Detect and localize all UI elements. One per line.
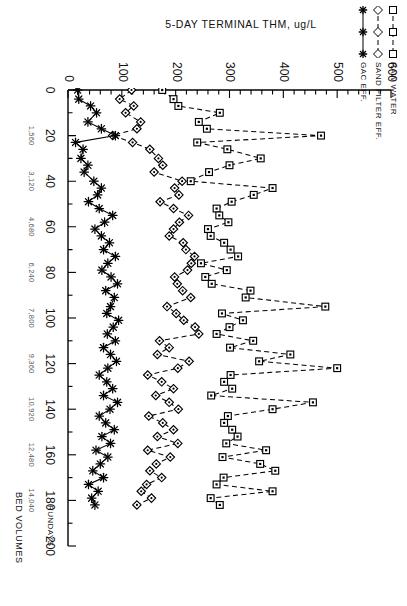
data-point-diamond	[163, 302, 171, 310]
diamond-marker-center	[186, 269, 188, 271]
data-point-square	[229, 426, 236, 433]
data-point-square	[269, 488, 276, 495]
legend-key-diamond-dashed	[372, 6, 386, 58]
series-sand-filter-eff	[108, 88, 203, 509]
square-marker-center	[229, 249, 231, 251]
data-point-square	[257, 155, 264, 162]
square-marker-center	[258, 360, 260, 362]
data-point-diamond	[145, 412, 153, 420]
data-point-diamond	[159, 419, 167, 427]
data-point-square	[175, 103, 182, 110]
diamond-marker-center	[177, 442, 179, 444]
diamond-marker-center	[190, 262, 192, 264]
data-point-diamond	[157, 378, 165, 386]
data-point-square	[223, 440, 230, 447]
data-point-diamond	[146, 467, 154, 475]
diamond-marker-center	[177, 408, 179, 410]
data-point-square	[287, 351, 294, 358]
data-point-square	[247, 287, 254, 294]
square-marker-center	[190, 180, 192, 182]
diamond-marker-center	[162, 422, 164, 424]
diamond-marker-center	[162, 164, 164, 166]
data-point-star	[114, 316, 123, 325]
diamond-marker-center	[159, 201, 161, 203]
data-point-star	[97, 124, 106, 133]
data-point-star	[99, 245, 108, 254]
square-marker-center	[231, 429, 233, 431]
x-tick-label: 120	[43, 344, 57, 384]
data-point-star	[80, 168, 89, 177]
square-marker-center	[271, 187, 273, 189]
data-point-diamond	[184, 211, 192, 219]
data-point-square	[221, 419, 228, 426]
diamond-marker-center	[156, 353, 158, 355]
data-point-square	[225, 219, 232, 226]
diamond-marker-center	[158, 340, 160, 342]
data-point-square	[221, 378, 228, 385]
square-marker-center	[289, 353, 291, 355]
data-point-diamond	[157, 473, 165, 481]
diamond-marker-center	[161, 381, 163, 383]
data-point-star	[109, 323, 118, 332]
data-point-diamond	[154, 154, 162, 162]
data-point-square	[220, 474, 227, 481]
diamond-marker-center	[188, 360, 190, 362]
x-axis-title-bed-volumes: BED VOLUMES	[14, 492, 24, 564]
data-point-star	[74, 95, 83, 104]
diamond-marker-center	[178, 221, 180, 223]
square-marker-center	[223, 242, 225, 244]
diamond-marker-center	[136, 128, 138, 130]
data-point-star	[106, 302, 115, 311]
diamond-marker-center	[147, 374, 149, 376]
data-point-diamond	[147, 494, 155, 502]
diamond-marker-center	[130, 89, 132, 91]
data-point-diamond	[115, 95, 123, 103]
square-marker-center	[242, 319, 244, 321]
data-point-star	[92, 109, 101, 118]
diamond-marker-center	[161, 477, 163, 479]
data-point-star	[77, 154, 86, 163]
square-marker-center	[218, 214, 220, 216]
data-point-square	[194, 139, 201, 146]
diamond-marker-center	[148, 415, 150, 417]
data-point-square	[213, 331, 220, 338]
data-point-square	[208, 392, 215, 399]
figure-canvas: RAW WATER SAND FILTER EFF.	[0, 0, 407, 606]
data-point-square	[224, 146, 231, 153]
y-tick-label: 600	[385, 42, 399, 82]
data-point-diamond	[178, 286, 186, 294]
data-point-square	[242, 294, 249, 301]
data-point-star	[71, 138, 80, 147]
data-point-diamond	[174, 439, 182, 447]
diamond-marker-center	[187, 214, 189, 216]
bed-volume-tick-label: 1,560	[27, 116, 36, 156]
data-point-star	[108, 384, 117, 393]
data-point-star	[113, 398, 122, 407]
data-point-square	[221, 239, 228, 246]
square-marker-center	[226, 269, 228, 271]
data-point-star	[95, 204, 104, 213]
data-point-square	[207, 495, 214, 502]
square-marker-center	[198, 121, 200, 123]
y-tick-label: 0	[62, 42, 76, 82]
square-marker-center	[215, 333, 217, 335]
square-marker-center	[252, 340, 254, 342]
series-raw-water	[159, 88, 341, 508]
data-point-star	[110, 293, 119, 302]
data-point-square	[229, 385, 236, 392]
diamond-marker-center	[150, 497, 152, 499]
diamond-marker-center	[172, 429, 174, 431]
data-point-square	[235, 253, 242, 260]
diamond-marker-center	[172, 388, 174, 390]
square-marker-center	[210, 497, 212, 499]
diamond-marker-center	[181, 180, 183, 182]
x-tick-label: 100	[43, 298, 57, 338]
data-point-diamond	[152, 460, 160, 468]
data-point-square	[234, 433, 241, 440]
data-point-square	[318, 132, 325, 139]
data-point-square	[250, 191, 257, 198]
data-point-square	[227, 372, 234, 379]
data-point-square	[272, 467, 279, 474]
data-point-square	[322, 303, 329, 310]
diamond-marker-center	[133, 105, 135, 107]
